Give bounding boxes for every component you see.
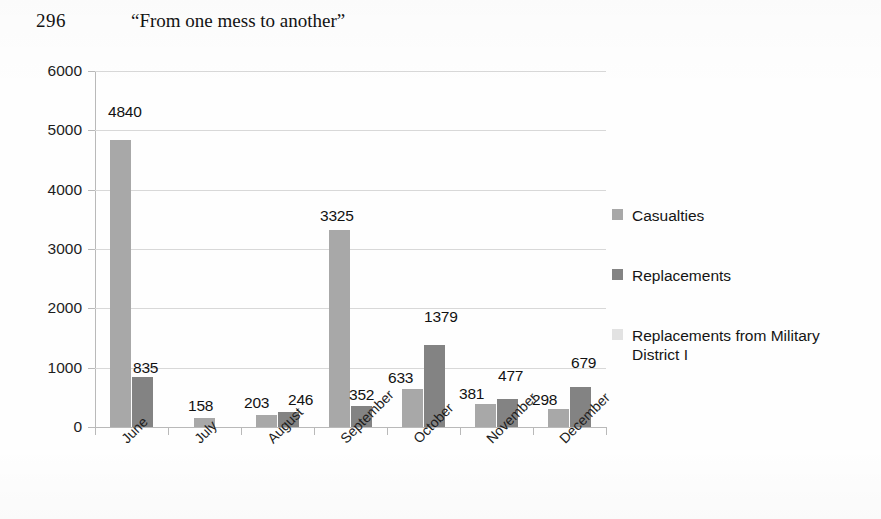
y-axis-tick-label: 3000 (20, 241, 82, 257)
legend-label: Replacements (632, 266, 870, 285)
bar-september-casualties (329, 230, 350, 427)
x-axis-tick-mark (241, 428, 242, 435)
legend-label: Casualties (632, 206, 870, 225)
legend-swatch-icon (612, 269, 623, 280)
bar-june-casualties (110, 140, 131, 427)
x-axis-tick-mark (95, 428, 96, 435)
y-axis-tick-mark (88, 308, 95, 309)
y-axis-tick-mark (88, 427, 95, 428)
bar-value-label: 203 (244, 395, 269, 411)
y-axis-tick-label: 6000 (20, 63, 82, 79)
legend-swatch-icon (612, 329, 623, 340)
bar-value-label: 4840 (108, 104, 142, 120)
y-axis-tick-label: 2000 (20, 300, 82, 316)
bar-value-label: 835 (133, 360, 158, 376)
x-axis-tick-mark (460, 428, 461, 435)
bar-value-label: 381 (459, 386, 484, 402)
page-header: 296 “From one mess to another” (0, 6, 881, 40)
bar-value-label: 679 (571, 355, 596, 371)
y-axis-tick-label: 1000 (20, 360, 82, 376)
bar-chart: 6000500040003000200010000 48408351582032… (0, 46, 881, 519)
y-axis-tick-mark (88, 249, 95, 250)
legend-item-replacements-from-military-district-i[interactable]: Replacements from Military District I (612, 326, 874, 364)
y-axis-tick-label: 0 (20, 419, 82, 435)
page-number: 296 (36, 10, 66, 32)
bar-value-label: 477 (498, 368, 523, 384)
x-axis-tick-mark (533, 428, 534, 435)
plot-area: 4840835158203246332535263313793814772986… (95, 71, 606, 427)
bar-october-casualties (402, 389, 423, 427)
y-axis-tick-mark (88, 130, 95, 131)
bar-value-label: 158 (188, 398, 213, 414)
legend-label: Replacements from Military District I (632, 326, 870, 364)
chart-legend: CasualtiesReplacementsReplacements from … (612, 206, 874, 405)
bar-value-label: 3325 (320, 208, 354, 224)
y-axis-tick-mark (88, 190, 95, 191)
y-axis-tick-mark (88, 368, 95, 369)
y-axis-tick-label: 5000 (20, 122, 82, 138)
x-axis-tick-mark (314, 428, 315, 435)
bar-value-label: 1379 (424, 309, 458, 325)
x-axis-tick-mark (606, 428, 607, 435)
x-axis-tick-mark (387, 428, 388, 435)
legend-swatch-icon (612, 209, 623, 220)
y-axis-tick-mark (88, 71, 95, 72)
legend-item-replacements[interactable]: Replacements (612, 266, 874, 285)
y-axis-tick-label: 4000 (20, 182, 82, 198)
running-head: “From one mess to another” (131, 10, 345, 32)
legend-item-casualties[interactable]: Casualties (612, 206, 874, 225)
bar-value-label: 633 (388, 370, 413, 386)
x-axis-tick-mark (168, 428, 169, 435)
